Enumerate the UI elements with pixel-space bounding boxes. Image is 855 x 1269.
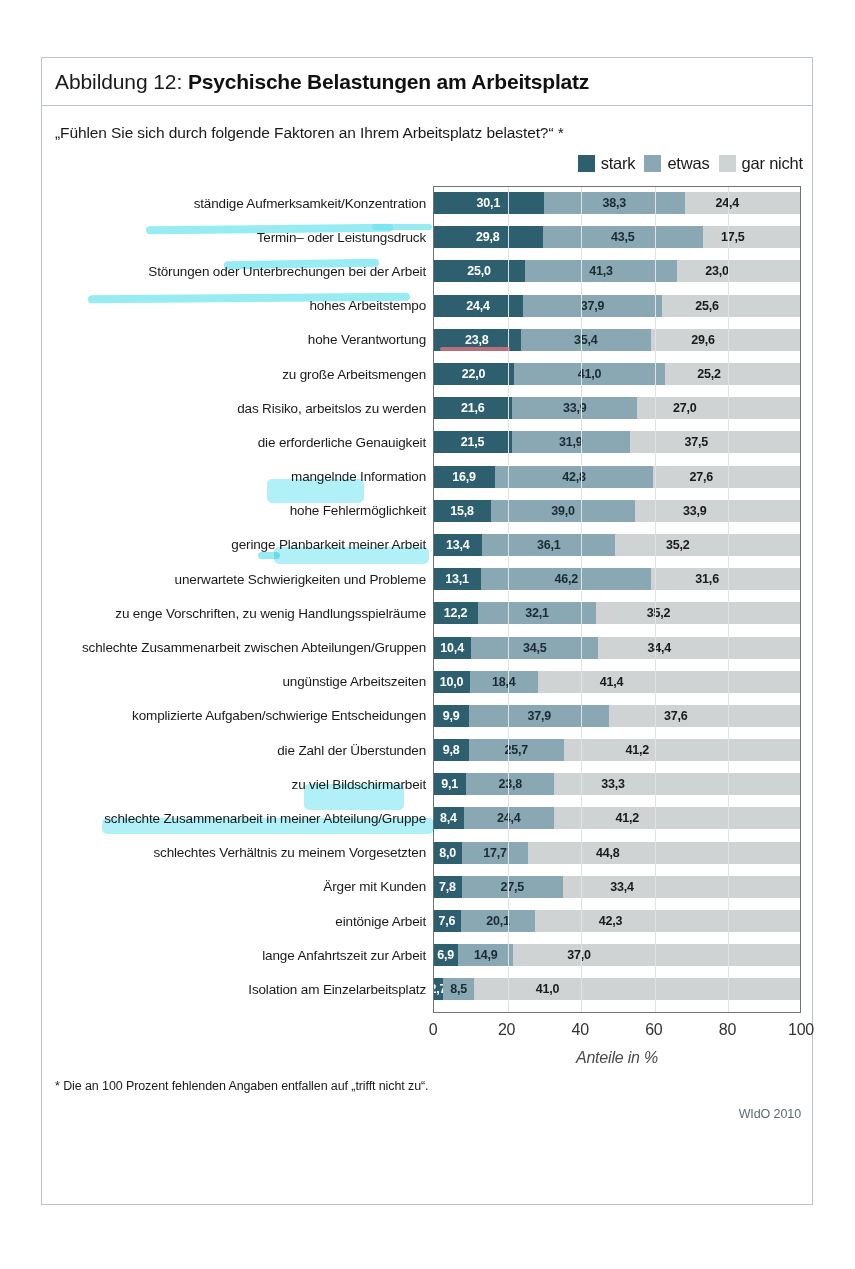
- bar-value-label: 44,8: [596, 846, 620, 860]
- stacked-bar: 9,825,741,2: [433, 739, 801, 761]
- bar-value-label: 15,8: [450, 504, 474, 518]
- bar-value-label: 24,4: [716, 196, 740, 210]
- chart-row-label: schlechte Zusammenarbeit in meiner Abtei…: [42, 801, 433, 835]
- bar-segment-strong: 9,1: [433, 773, 466, 795]
- source-label: WIdO 2010: [739, 1107, 801, 1121]
- chart-row-bars: 30,138,324,4: [433, 186, 812, 220]
- chart-row: zu viel Bildschirmarbeit9,123,833,3: [42, 767, 812, 801]
- bar-segment-none: 41,4: [538, 671, 801, 693]
- bar-segment-none: 42,3: [535, 910, 801, 932]
- chart-row-bars: 7,827,533,4: [433, 870, 812, 904]
- bar-segment-some: 33,9: [512, 397, 637, 419]
- bar-segment-strong: 10,0: [433, 671, 470, 693]
- stacked-bar: 13,436,135,2: [433, 534, 801, 556]
- bar-value-label: 23,0: [705, 264, 729, 278]
- chart-row-label: ständige Aufmerksamkeit/Konzentration: [42, 186, 433, 220]
- bar-value-label: 46,2: [554, 572, 578, 586]
- chart-row: eintönige Arbeit7,620,142,3: [42, 904, 812, 938]
- chart-row-bars: 8,017,744,8: [433, 836, 812, 870]
- bar-value-label: 33,9: [563, 401, 587, 415]
- chart-row: lange Anfahrtszeit zur Arbeit6,914,937,0: [42, 938, 812, 972]
- chart-row: komplizierte Aufgaben/schwierige Entsche…: [42, 699, 812, 733]
- bar-segment-some: 46,2: [481, 568, 651, 590]
- chart-row: hohes Arbeitstempo24,437,925,6: [42, 289, 812, 323]
- legend-label: etwas: [667, 154, 709, 173]
- bar-value-label: 37,9: [527, 709, 551, 723]
- bar-value-label: 8,5: [450, 982, 467, 996]
- chart-row-label: die erforderliche Genauigkeit: [42, 425, 433, 459]
- bar-segment-none: 25,6: [662, 295, 801, 317]
- chart-row-bars: 22,041,025,2: [433, 357, 812, 391]
- bar-segment-none: 24,4: [685, 192, 801, 214]
- stacked-bar: 10,018,441,4: [433, 671, 801, 693]
- bar-segment-none: 33,4: [563, 876, 801, 898]
- bar-value-label: 42,3: [599, 914, 623, 928]
- bar-segment-some: 41,0: [514, 363, 665, 385]
- bar-segment-some: 37,9: [469, 705, 608, 727]
- bar-value-label: 13,4: [446, 538, 470, 552]
- bar-segment-some: 34,5: [471, 637, 598, 659]
- bar-segment-some: 42,8: [495, 466, 653, 488]
- chart-row-label: das Risiko, arbeitslos zu werden: [42, 391, 433, 425]
- bar-value-label: 41,2: [625, 743, 649, 757]
- bar-value-label: 31,6: [695, 572, 719, 586]
- bar-segment-none: 34,4: [598, 637, 801, 659]
- x-axis-tick: 80: [719, 1021, 736, 1039]
- bar-segment-strong: 7,8: [433, 876, 462, 898]
- chart-row: Termin– oder Leistungsdruck29,843,517,5: [42, 220, 812, 254]
- chart-row: ständige Aufmerksamkeit/Konzentration30,…: [42, 186, 812, 220]
- chart-row-bars: 13,146,231,6: [433, 562, 812, 596]
- bar-value-label: 25,6: [695, 299, 719, 313]
- bar-segment-none: 17,5: [703, 226, 801, 248]
- stacked-bar: 21,531,937,5: [433, 431, 801, 453]
- stacked-bar: 25,041,323,0: [433, 260, 801, 282]
- bar-value-label: 25,0: [467, 264, 491, 278]
- bar-value-label: 31,9: [559, 435, 583, 449]
- chart-plot-area: ständige Aufmerksamkeit/Konzentration30,…: [42, 186, 812, 1007]
- bar-segment-strong: 9,9: [433, 705, 469, 727]
- chart-row-bars: 13,436,135,2: [433, 528, 812, 562]
- bar-value-label: 29,6: [691, 333, 715, 347]
- legend-item-stark: stark: [578, 154, 636, 173]
- bar-value-label: 33,3: [601, 777, 625, 791]
- bar-value-label: 21,6: [461, 401, 485, 415]
- legend-label: stark: [601, 154, 636, 173]
- bar-segment-strong: 13,4: [433, 534, 482, 556]
- chart-row-label: Isolation am Einzelarbeitsplatz: [42, 972, 433, 1006]
- bar-value-label: 36,1: [537, 538, 561, 552]
- bar-value-label: 18,4: [492, 675, 516, 689]
- bar-segment-some: 43,5: [543, 226, 703, 248]
- chart-row: Isolation am Einzelarbeitsplatz2,78,541,…: [42, 972, 812, 1006]
- chart-row-label: schlechte Zusammenarbeit zwischen Abteil…: [42, 630, 433, 664]
- bar-segment-some: 37,9: [523, 295, 662, 317]
- x-axis-tick: 40: [572, 1021, 589, 1039]
- bar-segment-some: 36,1: [482, 534, 615, 556]
- chart-row: das Risiko, arbeitslos zu werden21,633,9…: [42, 391, 812, 425]
- stacked-bar: 10,434,534,4: [433, 637, 801, 659]
- bar-segment-strong: 21,6: [433, 397, 512, 419]
- chart-row-label: hohe Verantwortung: [42, 323, 433, 357]
- bar-value-label: 32,1: [525, 606, 549, 620]
- stacked-bar: 2,78,541,0: [433, 978, 801, 1000]
- bar-segment-some: 41,3: [525, 260, 677, 282]
- bar-segment-none: 27,6: [653, 466, 801, 488]
- chart-row-label: unerwartete Schwierigkeiten und Probleme: [42, 562, 433, 596]
- bar-segment-none: 25,2: [665, 363, 801, 385]
- chart-row-bars: 7,620,142,3: [433, 904, 812, 938]
- bar-value-label: 37,6: [664, 709, 688, 723]
- chart-row: Ärger mit Kunden7,827,533,4: [42, 870, 812, 904]
- chart-row: zu enge Vorschriften, zu wenig Handlungs…: [42, 596, 812, 630]
- bar-value-label: 9,8: [443, 743, 460, 757]
- bar-segment-some: 39,0: [491, 500, 635, 522]
- stacked-bar: 24,437,925,6: [433, 295, 801, 317]
- stacked-bar: 16,942,827,6: [433, 466, 801, 488]
- bar-value-label: 38,3: [602, 196, 626, 210]
- stacked-bar: 7,827,533,4: [433, 876, 801, 898]
- legend-swatch-icon: [644, 155, 661, 172]
- x-axis-tick: 100: [788, 1021, 814, 1039]
- x-axis-tick: 20: [498, 1021, 515, 1039]
- chart-row: zu große Arbeitsmengen22,041,025,2: [42, 357, 812, 391]
- stacked-bar: 9,123,833,3: [433, 773, 801, 795]
- bar-value-label: 41,2: [615, 811, 639, 825]
- chart-legend: stark etwas gar nicht: [578, 154, 803, 173]
